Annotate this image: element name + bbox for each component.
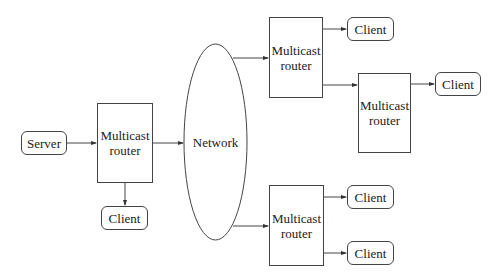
router-top-node: Multicast router xyxy=(269,17,323,98)
client-top-node: Client xyxy=(347,17,394,41)
router-label-line1: Multicast xyxy=(360,98,409,113)
router-label-line2: router xyxy=(281,226,312,241)
router-bottom-node: Multicast router xyxy=(269,185,324,266)
router-label-line1: Multicast xyxy=(272,211,321,226)
router-label-line2: router xyxy=(109,143,140,158)
client-bottom-2-node: Client xyxy=(347,241,394,265)
router-mid-node: Multicast router xyxy=(358,73,411,153)
connector-layer xyxy=(0,0,501,277)
router-label-line1: Multicast xyxy=(271,43,320,58)
server-node: Server xyxy=(21,131,67,155)
client-mid-node: Client xyxy=(435,72,481,96)
network-label: Network xyxy=(184,134,247,150)
router-main-node: Multicast router xyxy=(97,103,153,183)
client-bottom-1-node: Client xyxy=(347,185,394,209)
router-label-line2: router xyxy=(369,113,400,128)
client-main-node: Client xyxy=(101,206,148,230)
router-label-line1: Multicast xyxy=(100,128,149,143)
router-label-line2: router xyxy=(280,58,311,73)
